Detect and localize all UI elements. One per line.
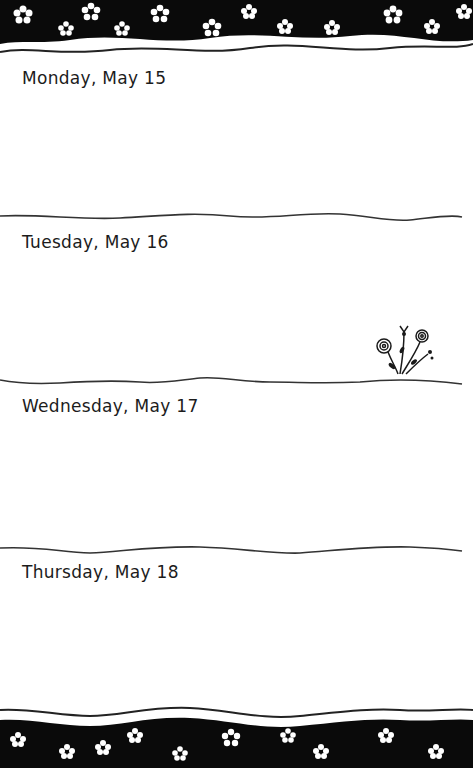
day-section-thursday: Thursday, May 18: [0, 552, 473, 700]
day-heading: Tuesday, May 16: [22, 232, 169, 252]
day-section-wednesday: Wednesday, May 17: [0, 384, 473, 544]
day-section-monday: Monday, May 15: [0, 0, 473, 210]
flower-doodle-icon: [372, 322, 442, 378]
day-heading: Wednesday, May 17: [22, 396, 199, 416]
day-heading: Monday, May 15: [22, 68, 166, 88]
day-heading: Thursday, May 18: [22, 562, 179, 582]
bottom-flower-border: [0, 700, 473, 768]
